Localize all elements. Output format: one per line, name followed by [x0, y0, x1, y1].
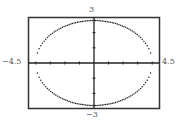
- curve-point: [141, 38, 143, 40]
- curve-point: [140, 37, 142, 39]
- curve-point: [92, 105, 94, 107]
- curve-point: [138, 89, 140, 91]
- curve-point: [143, 84, 145, 86]
- curve-point: [113, 102, 115, 104]
- curve-point: [52, 92, 54, 94]
- curve-point: [115, 102, 117, 104]
- curve-point: [83, 104, 85, 106]
- curve-point: [85, 20, 87, 22]
- curve-point: [73, 102, 75, 104]
- curve-point: [47, 88, 49, 90]
- curve-point: [102, 20, 104, 22]
- curve-point: [117, 101, 119, 103]
- curve-point: [110, 22, 112, 24]
- curve-point: [148, 48, 150, 50]
- curve-point: [53, 93, 55, 95]
- curve-point: [115, 23, 117, 25]
- curve-point: [132, 30, 134, 32]
- curve-point: [150, 72, 152, 74]
- y-max-label: 3: [89, 5, 94, 14]
- curve-point: [52, 33, 54, 35]
- curve-point: [38, 48, 40, 50]
- curve-point: [40, 79, 42, 81]
- curve-point: [88, 105, 90, 107]
- curve-point: [37, 52, 39, 54]
- curve-point: [123, 99, 125, 101]
- curve-point: [55, 94, 57, 96]
- curve-point: [92, 20, 94, 22]
- curve-point: [47, 37, 49, 39]
- curve-point: [105, 21, 107, 23]
- curve-point: [138, 35, 140, 37]
- curve-point: [150, 52, 152, 54]
- curve-point: [146, 45, 148, 47]
- curve-point: [100, 20, 102, 22]
- curve-point: [97, 20, 99, 22]
- curve-point: [107, 21, 109, 23]
- curve-point: [123, 26, 125, 28]
- curve-point: [103, 20, 105, 22]
- curve-point: [45, 38, 47, 40]
- curve-point: [70, 101, 72, 103]
- curve-point: [83, 20, 85, 22]
- curve-point: [97, 105, 99, 107]
- curve-point: [95, 20, 97, 22]
- curve-point: [40, 45, 42, 47]
- curve-point: [60, 97, 62, 99]
- curve-point: [68, 101, 70, 103]
- curve-point: [118, 101, 120, 103]
- curve-point: [105, 104, 107, 106]
- curve-point: [141, 86, 143, 88]
- curve-point: [48, 35, 50, 37]
- curve-point: [50, 91, 52, 93]
- curve-point: [135, 33, 137, 35]
- curve-point: [63, 26, 65, 28]
- curve-point: [73, 22, 75, 24]
- curve-point: [143, 40, 145, 42]
- curve-point: [62, 27, 64, 29]
- curve-point: [55, 30, 57, 32]
- curve-point: [57, 95, 59, 97]
- curve-point: [103, 104, 105, 106]
- x-min-label: −4.5: [2, 57, 21, 66]
- axes: [29, 18, 160, 109]
- curve-point: [135, 92, 137, 94]
- curve-point: [82, 104, 84, 106]
- curve-point: [145, 82, 147, 84]
- curve-point: [122, 99, 124, 101]
- curve-point: [120, 100, 122, 102]
- curve-point: [98, 20, 100, 22]
- x-max-label: 4.5: [162, 57, 175, 66]
- curve-point: [78, 103, 80, 105]
- curve-point: [112, 103, 114, 105]
- curve-point: [58, 28, 60, 30]
- curve-point: [75, 103, 77, 105]
- curve-point: [137, 34, 139, 36]
- curve-point: [77, 22, 79, 24]
- curve-point: [145, 43, 147, 45]
- curve-point: [87, 104, 89, 106]
- curve-point: [132, 94, 134, 96]
- curve-point: [146, 79, 148, 81]
- curve-point: [77, 103, 79, 105]
- curve-point: [125, 27, 127, 29]
- curve-point: [80, 104, 82, 106]
- curve-point: [128, 28, 130, 30]
- curve-point: [130, 95, 132, 97]
- curve-point: [122, 25, 124, 27]
- curve-point: [93, 20, 95, 22]
- curve-point: [53, 31, 55, 33]
- curve-point: [43, 84, 45, 86]
- curve-point: [117, 23, 119, 25]
- curve-point: [65, 99, 67, 101]
- curve-point: [82, 21, 84, 23]
- curve-point: [108, 103, 110, 105]
- curve-point: [93, 105, 95, 107]
- curve-point: [60, 27, 62, 29]
- curve-point: [42, 43, 44, 45]
- curve-point: [140, 88, 142, 90]
- curve-point: [125, 98, 127, 100]
- y-min-label: −3: [86, 110, 98, 119]
- curve-point: [42, 82, 44, 84]
- curve-point: [120, 24, 122, 26]
